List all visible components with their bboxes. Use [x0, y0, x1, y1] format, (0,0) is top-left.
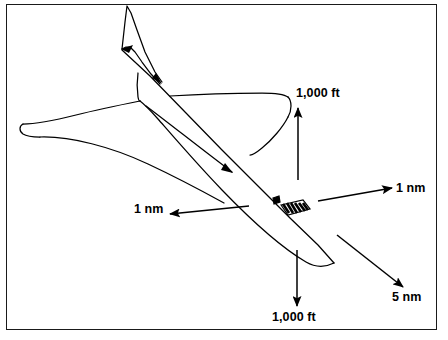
nose-marker	[273, 196, 280, 204]
left-wing-leading-edge	[23, 101, 140, 124]
right-wing-trailing-edge	[250, 117, 288, 155]
trailing-distance-arrow	[337, 235, 403, 287]
diagram-page: 1,000 ft 1,000 ft 1 nm 1 nm 5 nm	[0, 0, 448, 340]
left-wing-tip	[20, 124, 40, 137]
right-distance-arrow	[318, 188, 392, 201]
aircraft-wake-separation-illustration	[0, 0, 448, 340]
bottom-altitude-label: 1,000 ft	[272, 310, 316, 324]
right-wing-leading-edge	[170, 93, 288, 97]
right-distance-label: 1 nm	[396, 181, 426, 195]
top-altitude-label: 1,000 ft	[296, 86, 340, 100]
trailing-distance-label: 5 nm	[392, 290, 422, 304]
aircraft-outline	[20, 6, 334, 266]
tail-root	[137, 73, 140, 101]
left-wing-trailing-edge	[40, 137, 224, 203]
fuselage-top-edge	[122, 50, 334, 263]
right-wing-tip	[288, 97, 291, 117]
left-distance-label: 1 nm	[134, 202, 164, 216]
fuselage-bottom-edge	[140, 101, 334, 266]
cockpit-hatching	[283, 203, 308, 213]
tail-fin	[122, 6, 162, 82]
left-distance-arrow	[170, 206, 249, 214]
